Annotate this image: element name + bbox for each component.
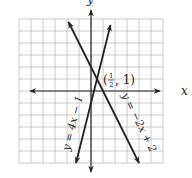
svg-text:(: ( <box>103 73 108 87</box>
coordinate-graph: x y ( 1 2 , 1) y = 4x − 1 y = −2x + 2 <box>0 0 192 178</box>
line2-label: y = −2x + 2 <box>119 90 159 155</box>
y-axis-label: y <box>86 0 94 6</box>
intersection-label: ( 1 2 , 1) <box>103 72 135 89</box>
x-axis-label: x <box>181 84 188 98</box>
svg-text:2: 2 <box>109 81 113 89</box>
svg-text:, 1): , 1) <box>115 73 135 87</box>
svg-text:1: 1 <box>109 72 113 80</box>
